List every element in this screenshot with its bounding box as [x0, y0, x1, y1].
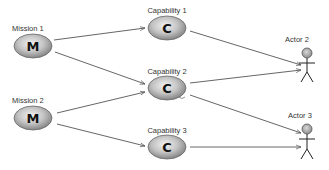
mission-capability-diagram: Mission 1 M Mission 2 M Capability 1 C C…: [0, 0, 329, 170]
actor-figure-icon: [299, 58, 315, 82]
capability-node-3[interactable]: Capability 3 C: [147, 126, 186, 159]
mission-1-label: Mission 1: [12, 24, 44, 33]
edge-capability2-actor3[interactable]: [190, 95, 301, 133]
actor-3-label: Actor 3: [288, 111, 312, 120]
mission-node-2[interactable]: Mission 2 M: [12, 96, 52, 130]
mission-2-label: Mission 2: [12, 96, 44, 105]
capability-icon: C: [162, 81, 172, 96]
mission-icon: M: [27, 111, 40, 126]
capability-3-label: Capability 3: [147, 126, 186, 135]
edge-mission2-capability3[interactable]: [57, 124, 145, 146]
capability-2-label: Capability 2: [147, 67, 186, 76]
actor-head-icon: [302, 48, 312, 58]
capability-node-1[interactable]: Capability 1 C: [147, 6, 186, 40]
capability-icon: C: [162, 21, 172, 36]
edge-capability2-actor2[interactable]: [190, 70, 301, 83]
mission-icon: M: [27, 39, 40, 54]
capability-1-label: Capability 1: [147, 6, 186, 15]
capability-node-2[interactable]: Capability 2 C: [147, 67, 186, 100]
mission-node-1[interactable]: Mission 1 M: [12, 24, 52, 58]
actor-2-label: Actor 2: [285, 35, 309, 44]
edge-mission1-capability1[interactable]: [54, 28, 145, 40]
actor-node-3[interactable]: Actor 3: [288, 111, 315, 159]
actor-node-2[interactable]: Actor 2: [285, 35, 315, 82]
actor-figure-icon: [299, 134, 315, 159]
actor-head-icon: [302, 124, 312, 134]
edge-mission1-capability2[interactable]: [55, 52, 145, 84]
capability-icon: C: [162, 140, 172, 155]
edge-mission2-capability2[interactable]: [57, 92, 145, 113]
